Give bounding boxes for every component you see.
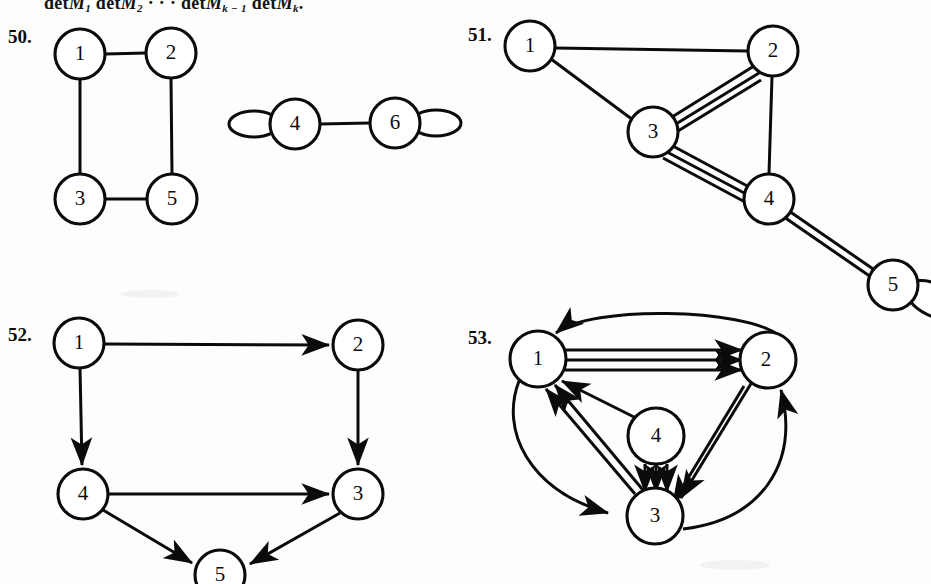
node-label: 1 [525,33,536,57]
figure-50: 1 2 3 5 4 6 [0,0,470,260]
node-label: 5 [167,186,178,210]
arc-3-to-5 [250,513,340,564]
textbook-figure-page: detM1 detM2 · · · detMk − 1 detMk. 50. 5… [0,0,931,584]
node-label: 4 [651,423,662,447]
node-label: 4 [78,481,89,505]
edge-2-4 [769,76,772,174]
node-6: 6 [370,98,420,148]
node-label: 1 [75,41,86,65]
arc-2-to-3-a [681,382,752,498]
node-3: 3 [628,107,678,157]
edge-2-5 [171,78,172,174]
node-1: 1 [55,29,105,79]
arc-1-to-2 [104,344,329,345]
node-1: 1 [510,331,566,387]
node-label: 2 [768,38,779,62]
node-1: 1 [54,318,104,368]
node-label: 3 [353,481,364,505]
node-2: 2 [748,26,798,76]
node-label: 6 [390,110,401,134]
node-3: 3 [55,174,105,224]
edge-3-4-a [671,145,751,188]
node-4: 4 [270,99,320,149]
node-3: 3 [627,488,683,544]
node-label: 2 [353,332,364,356]
node-label: 4 [764,186,775,210]
edge-1-2 [555,48,748,51]
node-2: 2 [333,320,383,370]
node-label: 3 [75,186,86,210]
arc-1-to-4 [80,368,82,465]
node-label: 3 [650,503,661,527]
node-label: 2 [761,347,772,371]
arc-4-to-1 [562,381,636,418]
node-3: 3 [333,469,383,519]
arc-3-to-1-a [546,389,635,494]
node-2: 2 [146,28,196,78]
edge-3-4-b [667,152,748,195]
edge-4-5-a [789,211,876,271]
node-label: 1 [74,330,85,354]
arc-4-to-5 [103,510,192,563]
node-label: 1 [533,346,544,370]
node-4: 4 [58,469,108,519]
arc-2-to-1-curved [556,313,780,336]
node-label: 5 [215,562,226,584]
figure-51: 1 2 3 4 5 [460,0,931,320]
node-label: 4 [290,111,301,135]
node-5: 5 [147,174,197,224]
edge-4-5-b [784,217,871,277]
node-label: 2 [166,40,177,64]
node-2: 2 [740,332,796,388]
edge-2-3-b [676,73,759,124]
node-4: 4 [628,408,684,464]
edge-1-3 [551,59,633,120]
node-4: 4 [744,174,794,224]
edge-4-6 [320,123,370,124]
node-5: 5 [195,550,245,584]
paper-smudge [120,290,180,298]
node-label: 5 [888,272,899,296]
edge-1-2 [105,53,146,54]
node-1: 1 [505,21,555,71]
edge-3-4-c [663,158,745,202]
node-label: 3 [648,119,659,143]
figure-52: 1 2 4 3 5 [0,300,460,584]
figure-53: 1 2 4 3 [460,300,931,584]
